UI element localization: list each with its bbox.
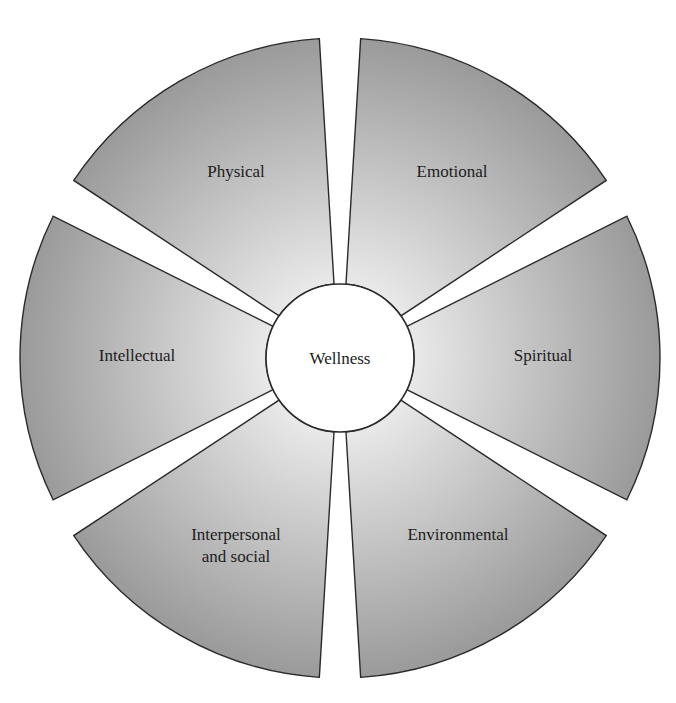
segment-label-line: Environmental — [407, 525, 508, 544]
segment-label-line: Spiritual — [514, 346, 573, 365]
segment-label-spiritual: Spiritual — [514, 346, 573, 365]
segment-label-line: Interpersonal — [191, 525, 281, 544]
wellness-wheel-diagram: PhysicalEmotionalSpiritualEnvironmentalI… — [0, 0, 676, 703]
segment-label-line: Intellectual — [99, 346, 176, 365]
center-label-wellness: Wellness — [310, 349, 371, 368]
segment-label-physical: Physical — [207, 162, 265, 181]
segment-label-line: Emotional — [417, 162, 488, 181]
segment-label-line: and social — [202, 547, 271, 566]
segment-label-emotional: Emotional — [417, 162, 488, 181]
segment-label-intellectual: Intellectual — [99, 346, 176, 365]
segment-label-line: Physical — [207, 162, 265, 181]
segment-label-environmental: Environmental — [407, 525, 508, 544]
